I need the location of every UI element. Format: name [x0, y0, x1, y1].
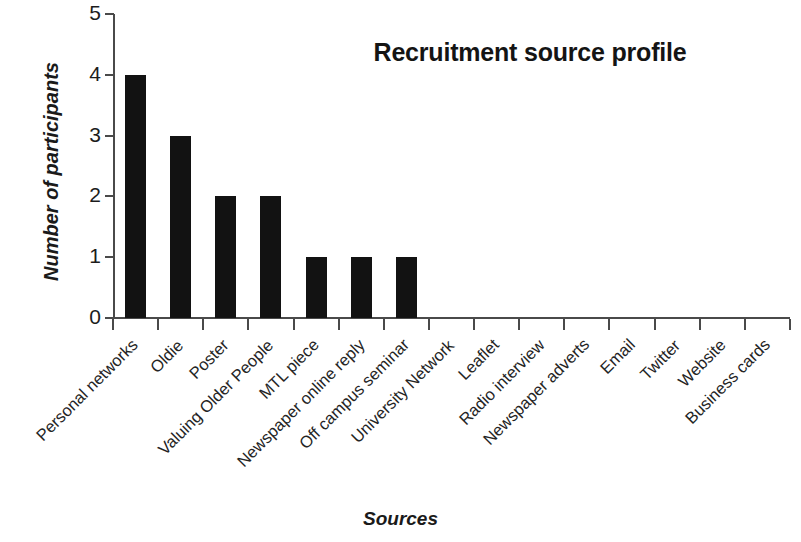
x-axis-tick [518, 319, 520, 330]
x-axis-tick [473, 319, 475, 330]
x-axis-tick [157, 319, 159, 330]
bar [125, 75, 146, 318]
bar [306, 257, 327, 318]
bar [170, 136, 191, 318]
x-axis-tick [383, 319, 385, 330]
x-axis-tick [112, 319, 114, 330]
x-axis-tick [202, 319, 204, 330]
x-axis-tick [293, 319, 295, 330]
x-axis-tick [247, 319, 249, 330]
bar [260, 196, 281, 318]
bar [351, 257, 372, 318]
x-axis-category-label: Business cards [682, 336, 773, 427]
x-axis-tick [654, 319, 656, 330]
x-axis-tick [699, 319, 701, 330]
x-axis-tick [338, 319, 340, 330]
x-axis-tick [789, 319, 791, 330]
x-axis-category-label: Personal networks [33, 336, 141, 444]
x-axis-tick [744, 319, 746, 330]
x-axis-tick [563, 319, 565, 330]
x-axis-title: Sources [0, 508, 801, 530]
x-axis-tick [608, 319, 610, 330]
bar [215, 196, 236, 318]
bar [396, 257, 417, 318]
x-axis-category-label: Oldie [147, 336, 186, 375]
x-axis-category-label: Email [597, 336, 638, 377]
bar-chart: Recruitment source profile Number of par… [0, 0, 801, 542]
x-axis-tick [428, 319, 430, 330]
bars-layer [0, 14, 801, 318]
